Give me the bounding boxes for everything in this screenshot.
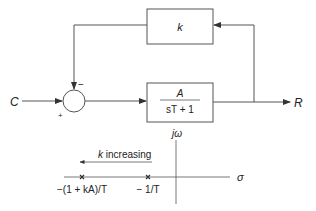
pole-label-open-loop: − 1/T bbox=[136, 184, 159, 195]
real-axis-label: σ bbox=[237, 171, 244, 183]
input-label: C bbox=[10, 95, 19, 109]
k-increasing-label: k increasing bbox=[98, 149, 151, 160]
increasing-word: increasing bbox=[103, 149, 151, 160]
diagram-canvas: C + − A sT + 1 R k jω σ k increasing −(1… bbox=[0, 0, 316, 211]
imaginary-axis-label: jω bbox=[170, 128, 182, 139]
summing-junction bbox=[63, 90, 85, 112]
plant-numerator: A bbox=[176, 88, 184, 99]
feedback-gain-label: k bbox=[177, 21, 183, 33]
feedback-return-arrow bbox=[74, 25, 147, 89]
plant-denominator: sT + 1 bbox=[166, 104, 194, 115]
summer-plus-sign: + bbox=[58, 111, 63, 120]
summer-minus-sign: − bbox=[78, 79, 84, 90]
output-label: R bbox=[294, 96, 303, 110]
pole-label-shifted: −(1 + kA)/T bbox=[57, 184, 107, 195]
feedback-tap-arrow bbox=[214, 25, 254, 102]
